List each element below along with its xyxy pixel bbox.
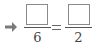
right-fraction-bar bbox=[65, 27, 92, 28]
right-arrow-icon bbox=[5, 22, 17, 32]
left-fraction-bar bbox=[24, 27, 51, 28]
left-numerator-input-box[interactable] bbox=[26, 4, 48, 25]
left-denominator: 6 bbox=[24, 31, 51, 44]
right-numerator-input-box[interactable] bbox=[68, 4, 90, 25]
equals-sign bbox=[52, 25, 61, 30]
right-denominator: 2 bbox=[65, 31, 92, 44]
